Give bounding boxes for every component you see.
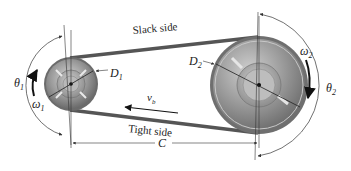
d1-leader <box>96 70 108 71</box>
theta2-label: θ2 <box>326 81 336 97</box>
omega1-arrow <box>33 70 37 96</box>
c-label: C <box>158 136 167 150</box>
vb-label: vb <box>147 91 156 106</box>
d1-label: D1 <box>109 66 123 82</box>
omega2-label: ω2 <box>300 44 312 60</box>
tight-side-label: Tight side <box>128 122 173 139</box>
slack-side-label: Slack side <box>132 20 178 36</box>
theta1-label: θ1 <box>14 76 24 92</box>
omega1-label: ω1 <box>32 97 44 113</box>
vb-arrow <box>125 107 178 113</box>
d2-leader <box>203 61 214 64</box>
d2-label: D2 <box>188 54 202 70</box>
belt-drive-diagram: Slack side Tight side D1 D2 θ1 θ2 ω1 ω2 … <box>0 0 351 171</box>
